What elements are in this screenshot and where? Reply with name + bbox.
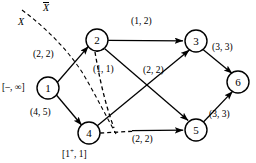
cut-label-x: X: [18, 17, 24, 27]
node-2-label: 2: [94, 34, 100, 46]
cut-label-x-bar: X: [43, 3, 49, 13]
node-4-annotation-suffix: , 1]: [74, 149, 87, 159]
edge-label-4-3: (2, 2): [143, 66, 164, 76]
edge-label-1-2: (2, 2): [33, 50, 54, 60]
node-1-annotation: [–, ∞]: [2, 83, 25, 93]
node-4-label: 4: [86, 127, 92, 139]
node-4-annotation: [1+, 1]: [62, 148, 87, 160]
edge-1-4: [56, 95, 81, 125]
diagram-canvas: 1 2 3 4 5 6 X X [–, ∞] [1+, 1] (2, 2) (4…: [0, 0, 256, 163]
edge-label-2-3: (1, 2): [131, 17, 152, 27]
edge-label-5-6: (3, 3): [209, 110, 230, 120]
edge-label-1-4: (4, 5): [30, 108, 51, 118]
edge-3-6: [203, 49, 232, 73]
edge-4-3: [97, 50, 189, 126]
edge-label-3-6: (3, 3): [212, 43, 233, 53]
node-4-annotation-prefix: [1: [62, 149, 70, 159]
edge-4-5-dashed-part: [100, 131, 134, 133]
node-1-label: 1: [45, 82, 51, 94]
edge-label-4-5: (2, 2): [132, 135, 153, 145]
x-bar-overline: X: [43, 3, 49, 13]
edge-1-2: [57, 46, 88, 82]
node-5-label: 5: [193, 124, 199, 136]
edge-label-2-5: (1, 1): [93, 65, 114, 75]
node-3-label: 3: [193, 35, 199, 47]
node-6-label: 6: [235, 76, 241, 88]
graph-svg: 1 2 3 4 5 6: [0, 0, 256, 163]
